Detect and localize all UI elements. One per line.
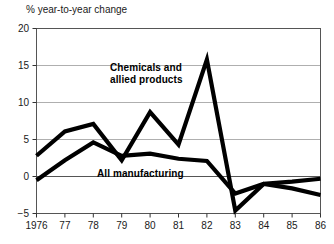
series-label-chemicals-and-allied-products: Chemicals and allied products	[110, 62, 183, 85]
series-label-all-manufacturing: All manufacturing	[97, 168, 184, 180]
x-tick-label: 86	[306, 221, 334, 231]
y-tick-label: 15	[3, 61, 29, 71]
x-tick-label: 1976	[22, 221, 52, 231]
chart-figure: % year-to-year change 20151050−5 1976777…	[0, 0, 334, 244]
y-tick-label: 10	[3, 98, 29, 108]
x-tick-label: 80	[135, 221, 165, 231]
x-tick-label: 81	[164, 221, 194, 231]
x-tick-label: 84	[249, 221, 279, 231]
x-tick-label: 79	[107, 221, 137, 231]
y-tick-label: 5	[3, 135, 29, 145]
x-tick-label: 83	[220, 221, 250, 231]
x-tick-label: 77	[50, 221, 80, 231]
y-tick-label: −5	[3, 209, 29, 219]
x-tick-label: 82	[192, 221, 222, 231]
plot-area	[0, 0, 334, 244]
axis-ticks	[33, 29, 321, 218]
y-tick-label: 20	[3, 24, 29, 34]
y-tick-label: 0	[3, 172, 29, 182]
x-tick-label: 78	[78, 221, 108, 231]
x-tick-label: 85	[277, 221, 307, 231]
